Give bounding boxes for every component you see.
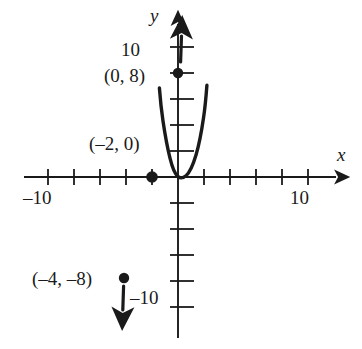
curve-arrow-up xyxy=(181,36,182,62)
y-tick-label-neg10: –10 xyxy=(130,288,159,307)
y-axis-label: y xyxy=(150,6,158,25)
x-tick-label-10: 10 xyxy=(290,188,309,207)
point-marker-0-8 xyxy=(173,68,183,78)
point-label-neg2-0: (–2, 0) xyxy=(89,134,140,153)
x-tick-label-neg10: –10 xyxy=(23,188,52,207)
y-tick-label-10: 10 xyxy=(121,40,140,59)
point-label-0-8: (0, 8) xyxy=(104,66,145,85)
point-marker-neg2-0 xyxy=(146,171,158,183)
point-marker-neg4-neg8 xyxy=(119,273,129,283)
x-axis-label: x xyxy=(337,145,345,164)
cubic-function-graph: y x 10 –10 –10 10 (0, 8) (–2, 0) (–4, –8… xyxy=(0,0,362,349)
graph-canvas xyxy=(0,0,362,349)
curve-arrow-down xyxy=(123,286,124,310)
point-label-neg4-neg8: (–4, –8) xyxy=(32,269,92,288)
